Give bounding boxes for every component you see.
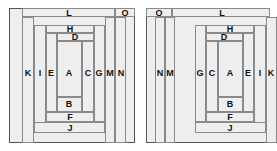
- region-left-n: [115, 17, 126, 143]
- region-left-i: [34, 25, 46, 133]
- region-right-d: [206, 33, 243, 41]
- region-right-l: [172, 8, 270, 17]
- region-right-o: [146, 8, 172, 17]
- region-left-e: [46, 33, 57, 112]
- region-right-i: [254, 25, 266, 133]
- region-left-b: [57, 97, 82, 112]
- region-right-m: [165, 17, 175, 143]
- region-left-h: [46, 25, 94, 33]
- region-right-g: [195, 25, 206, 122]
- region-right-j: [195, 122, 266, 133]
- region-left-a: [57, 41, 82, 97]
- region-right-a: [218, 41, 243, 97]
- diagram-canvas: ABCDEFGHIJKLMNO ABCDEFGHIJKLMNO: [0, 0, 277, 151]
- region-right-b: [218, 97, 243, 112]
- region-right-e: [243, 33, 254, 112]
- region-left-o: [115, 8, 135, 17]
- region-right-k: [266, 17, 277, 143]
- region-right-n: [155, 17, 165, 143]
- region-right-c: [206, 41, 218, 112]
- region-left-g: [94, 25, 105, 122]
- region-left-m: [105, 17, 115, 143]
- region-right-h: [206, 25, 254, 33]
- region-left-j: [34, 122, 105, 133]
- region-left-k: [22, 17, 34, 143]
- region-left-f: [46, 112, 94, 122]
- region-left-c: [82, 41, 94, 112]
- region-left-d: [57, 33, 94, 41]
- region-left-l: [22, 8, 115, 17]
- region-right-f: [206, 112, 254, 122]
